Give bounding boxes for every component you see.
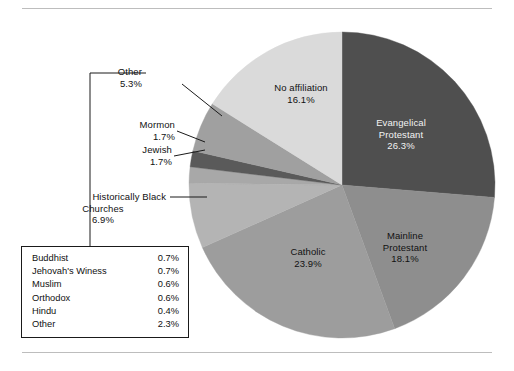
callout-mormon: Mormon 1.7% <box>80 119 175 142</box>
breakdown-value: 0.4% <box>147 305 179 318</box>
slice-label-value: 26.3% <box>341 140 461 152</box>
slice-label-line1: Catholic <box>253 246 363 258</box>
slice-label-line1: Mainline <box>345 230 465 242</box>
callout-jewish-value: 1.7% <box>80 156 172 168</box>
table-row: Other 2.3% <box>32 318 179 331</box>
table-row: Jehovah's Winess 0.7% <box>32 265 179 278</box>
slice-label-value: 23.9% <box>253 258 363 270</box>
breakdown-name: Buddhist <box>32 252 68 265</box>
callout-other-value: 5.3% <box>52 78 142 90</box>
slice-label-line1: Evangelical <box>341 117 461 129</box>
slice-label-line2: Protestant <box>341 129 461 141</box>
breakdown-value: 2.3% <box>147 318 179 331</box>
table-row: Muslim 0.6% <box>32 278 179 291</box>
slice-label-line2: Protestant <box>345 242 465 254</box>
slice-label-value: 16.1% <box>246 94 356 106</box>
slice-label-mainline-protestant: Mainline Protestant 18.1% <box>345 230 465 265</box>
breakdown-value: 0.6% <box>147 278 179 291</box>
callout-hbc-line2: Churches <box>40 203 166 215</box>
figure-container: Evangelical Protestant 26.3% Mainline Pr… <box>0 0 514 371</box>
callout-other-name: Other <box>52 66 142 78</box>
slice-label-no-affiliation: No affiliation 16.1% <box>246 82 356 105</box>
callout-mormon-value: 1.7% <box>80 131 175 143</box>
table-row: Hindu 0.4% <box>32 305 179 318</box>
breakdown-name: Muslim <box>32 278 61 291</box>
breakdown-name: Hindu <box>32 305 56 318</box>
breakdown-name: Other <box>32 318 55 331</box>
callout-jewish-name: Jewish <box>80 144 172 156</box>
slice-label-catholic: Catholic 23.9% <box>253 246 363 269</box>
callout-hbc-value: 6.9% <box>40 214 166 226</box>
breakdown-name: Jehovah's Winess <box>32 265 107 278</box>
table-row: Orthodox 0.6% <box>32 292 179 305</box>
breakdown-value: 0.6% <box>147 292 179 305</box>
breakdown-value: 0.7% <box>147 265 179 278</box>
slice-label-line1: No affiliation <box>246 82 356 94</box>
callout-other: Other 5.3% <box>52 66 142 89</box>
callout-historically-black-churches: Historically Black Churches 6.9% <box>40 191 166 226</box>
table-row: Buddhist 0.7% <box>32 252 179 265</box>
slice-label-evangelical-protestant: Evangelical Protestant 26.3% <box>341 117 461 152</box>
breakdown-value: 0.7% <box>147 252 179 265</box>
pie-slice-group <box>189 32 495 338</box>
pie-slice-evangelical-protestant <box>342 32 495 197</box>
callout-jewish: Jewish 1.7% <box>80 144 172 167</box>
breakdown-name: Orthodox <box>32 292 70 305</box>
other-breakdown-table: Buddhist 0.7% Jehovah's Winess 0.7% Musl… <box>21 246 189 338</box>
callout-mormon-name: Mormon <box>80 119 175 131</box>
callout-hbc-line1: Historically Black <box>40 191 166 203</box>
slice-label-value: 18.1% <box>345 253 465 265</box>
